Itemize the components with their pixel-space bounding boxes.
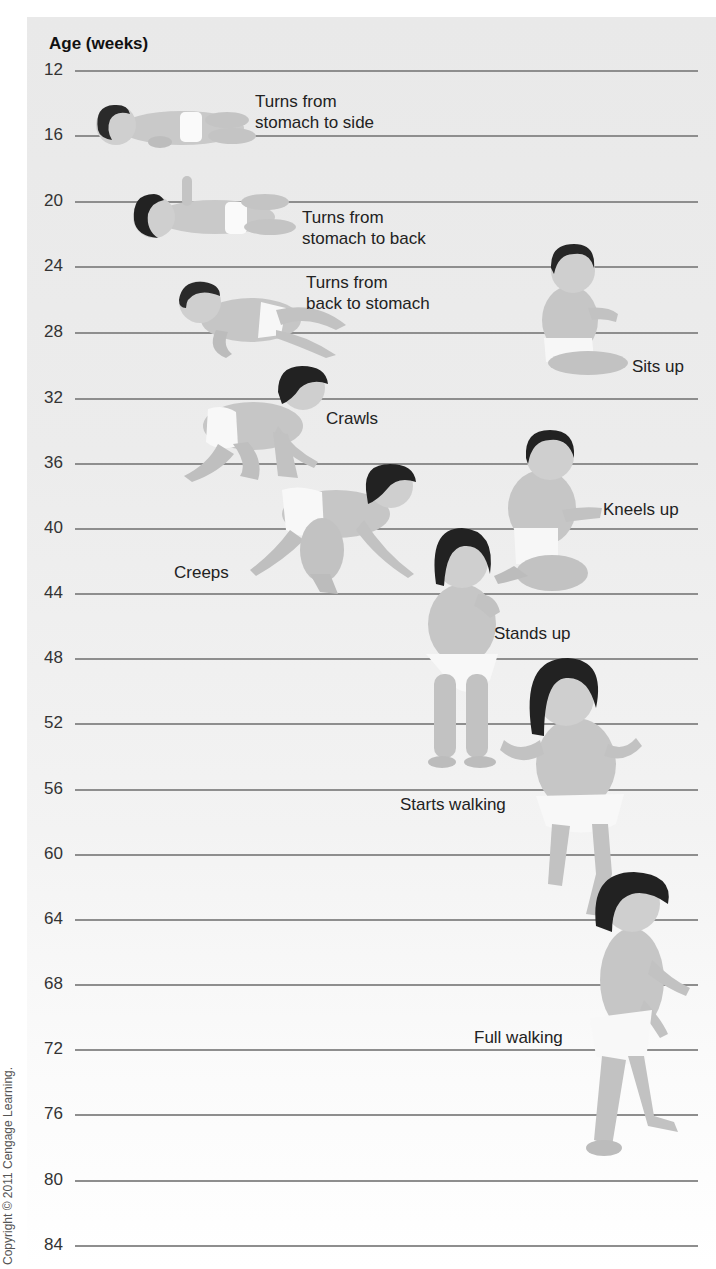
milestone-line: Turns from (302, 207, 426, 228)
tick-label: 48 (44, 648, 70, 668)
milestone-turns-stomach-to-back: Turns from stomach to back (302, 207, 426, 249)
tick-label: 24 (44, 256, 70, 276)
tick-label: 72 (44, 1039, 70, 1059)
tick-label: 20 (44, 191, 70, 211)
tick-label: 60 (44, 844, 70, 864)
tick-label: 56 (44, 779, 70, 799)
tick-label: 36 (44, 453, 70, 473)
baby-lying-back-illustration (130, 172, 300, 242)
milestone-starts-walking: Starts walking (400, 794, 506, 815)
tick-label: 16 (44, 125, 70, 145)
milestone-stands-up: Stands up (494, 623, 571, 644)
milestone-line: stomach to side (255, 112, 374, 133)
milestone-turns-back-to-stomach: Turns from back to stomach (306, 272, 430, 314)
milestone-turns-stomach-to-side: Turns from stomach to side (255, 91, 374, 133)
gridline (75, 1180, 698, 1182)
tick-label: 44 (44, 583, 70, 603)
milestone-creeps: Creeps (174, 562, 229, 583)
milestone-full-walking: Full walking (474, 1027, 563, 1048)
gridline (75, 398, 698, 400)
baby-full-walking-illustration (582, 870, 694, 1162)
tick-label: 80 (44, 1170, 70, 1190)
tick-label: 40 (44, 518, 70, 538)
milestone-line: stomach to back (302, 228, 426, 249)
baby-sitting-illustration (538, 238, 634, 380)
baby-standing-illustration (418, 524, 508, 770)
y-axis-title: Age (weeks) (49, 34, 148, 54)
tick-label: 64 (44, 909, 70, 929)
tick-label: 68 (44, 974, 70, 994)
tick-label: 84 (44, 1235, 70, 1255)
milestone-sits-up: Sits up (632, 356, 684, 377)
tick-label: 28 (44, 322, 70, 342)
gridline (75, 70, 698, 72)
milestone-line: Turns from (306, 272, 430, 293)
tick-label: 12 (44, 60, 70, 80)
milestone-kneels-up: Kneels up (603, 499, 679, 520)
gridline (75, 1245, 698, 1247)
tick-label: 76 (44, 1104, 70, 1124)
baby-lying-side-illustration (92, 100, 262, 155)
copyright-notice: Copyright © 2011 Cengage Learning. (0, 1065, 16, 1265)
baby-creeping-illustration (246, 462, 418, 598)
milestone-crawls: Crawls (326, 408, 378, 429)
milestone-line: back to stomach (306, 293, 430, 314)
tick-label: 52 (44, 713, 70, 733)
tick-label: 32 (44, 388, 70, 408)
baby-kneeling-illustration (492, 428, 608, 594)
milestone-line: Turns from (255, 91, 374, 112)
